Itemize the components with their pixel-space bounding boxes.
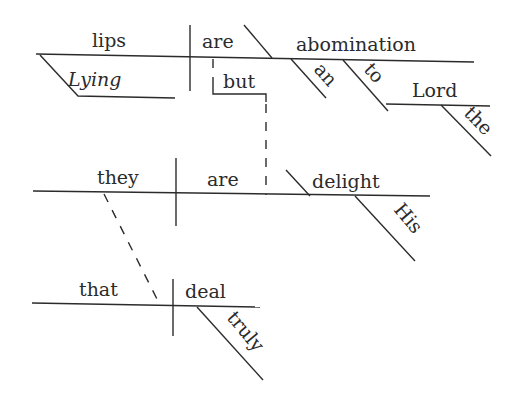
modifier-lying: Lying <box>67 68 122 90</box>
clause-1-verb: are <box>202 30 234 52</box>
clause-2-predicate-slash <box>286 170 310 196</box>
prep-object-lord: Lord <box>412 79 457 101</box>
relative-clause-baseline <box>32 303 260 307</box>
clause-1: lips are abomination Lying an to Lord th… <box>36 25 498 156</box>
article-the: the <box>460 101 497 139</box>
preposition-to: to <box>360 58 389 87</box>
clause-2-subject: they <box>97 166 139 188</box>
clause-1-baseline <box>36 54 474 62</box>
clause-2: they are delight His <box>33 158 430 261</box>
relative-clause: that deal truly <box>32 278 269 380</box>
adverb-truly: truly <box>223 306 269 355</box>
relative-clause-subject: that <box>79 278 118 300</box>
clause-2-verb: are <box>207 168 239 190</box>
possessive-his: His <box>390 198 428 237</box>
clause-2-predicate-nominative: delight <box>312 170 380 192</box>
clause-1-subject: lips <box>92 29 126 51</box>
relative-clause-verb: deal <box>185 280 226 302</box>
clause-1-predicate-slash <box>244 25 272 58</box>
conjunction-label: but <box>223 70 255 92</box>
sentence-diagram: lips are abomination Lying an to Lord th… <box>0 0 525 400</box>
clause-1-predicate-nominative: abomination <box>296 33 416 55</box>
